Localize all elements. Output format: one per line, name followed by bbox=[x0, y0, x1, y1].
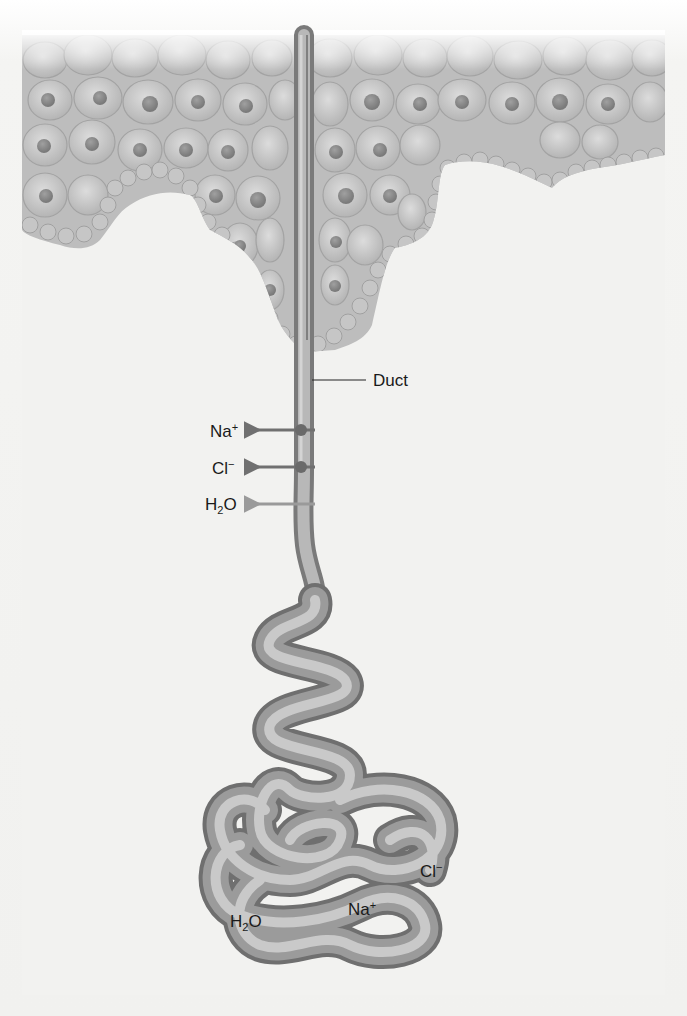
sweat-gland-diagram bbox=[0, 0, 687, 1016]
duct bbox=[301, 35, 316, 600]
cl-duct-label: Cl− bbox=[212, 459, 235, 477]
na-duct-label: Na+ bbox=[210, 422, 238, 440]
duct-label: Duct bbox=[373, 372, 408, 389]
cl-pump bbox=[295, 461, 307, 473]
cl-coil-label: Cl− bbox=[420, 862, 443, 880]
h2o-coil-label: H2O bbox=[230, 913, 262, 933]
h2o-duct-label: H2O bbox=[205, 496, 237, 516]
na-pump bbox=[295, 424, 307, 436]
na-coil-label: Na+ bbox=[348, 900, 376, 918]
